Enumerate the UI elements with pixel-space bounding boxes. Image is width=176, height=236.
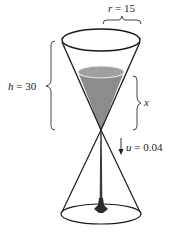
- upper-cone-rim: [62, 29, 140, 51]
- height-label: h = 30: [8, 80, 37, 92]
- radius-brace: [103, 16, 141, 24]
- liquid-surface: [78, 66, 124, 78]
- flow-rate-label: u = 0.04: [126, 141, 163, 153]
- hourglass-diagram: r = 15 h = 30 x u = 0.04: [0, 0, 176, 236]
- radius-label: r = 15: [108, 2, 136, 14]
- lower-cone-left-edge: [62, 130, 101, 212]
- liquid-stream: [100, 132, 103, 200]
- upper-liquid: [78, 72, 124, 130]
- depth-label: x: [143, 96, 149, 108]
- height-brace: [46, 41, 55, 130]
- depth-brace: [133, 76, 141, 130]
- liquid-puddle: [94, 198, 108, 213]
- flow-arrow-head: [119, 149, 124, 155]
